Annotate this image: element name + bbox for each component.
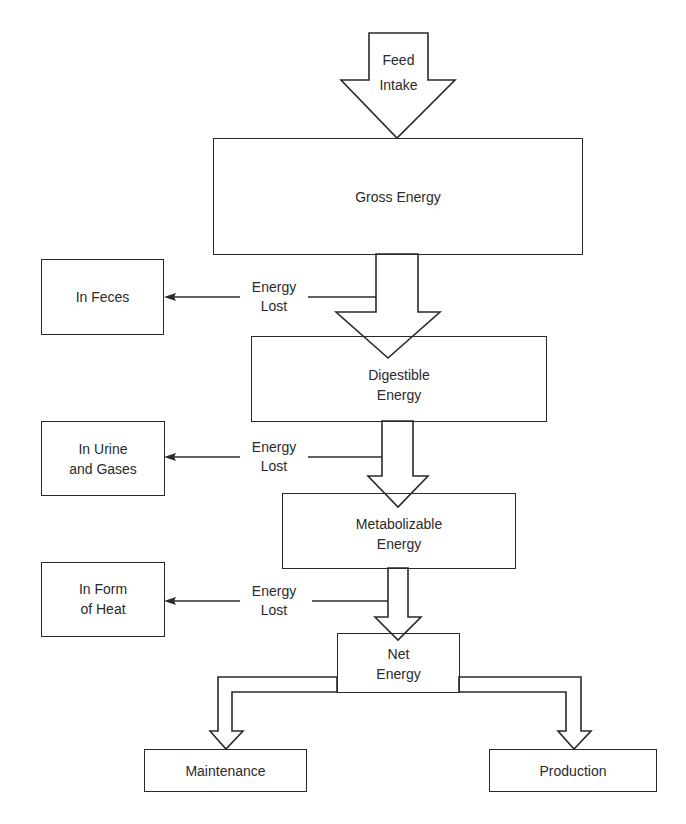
- production-label: Production: [540, 761, 607, 781]
- maintenance-box: Maintenance: [144, 749, 307, 792]
- metabolizable-to-net-arrow: [375, 568, 421, 640]
- energy-lost-label-1: Energy Lost: [236, 278, 312, 316]
- production-box: Production: [489, 749, 657, 792]
- net-to-production-arrow: [459, 677, 591, 749]
- gross-energy-label: Gross Energy: [355, 187, 441, 207]
- net-energy-label: Energy: [376, 664, 420, 684]
- gross-energy-box: Gross Energy: [213, 138, 583, 255]
- metabolizable-label: Metabolizable: [356, 514, 442, 534]
- metabolizable-energy-label: Energy: [356, 534, 442, 554]
- digestible-energy-label: Energy: [368, 385, 429, 405]
- net-to-maintenance-arrow: [210, 677, 337, 749]
- in-urine-and-gases-box: In Urine and Gases: [41, 421, 165, 496]
- feed-intake-label: Feed Intake: [369, 41, 428, 95]
- feed-label: Feed: [369, 41, 428, 79]
- net-label: Net: [376, 644, 420, 664]
- metabolizable-energy-box: Metabolizable Energy: [282, 493, 516, 569]
- net-energy-box: Net Energy: [337, 633, 460, 693]
- energy-lost-label-3: Energy Lost: [236, 582, 312, 620]
- digestible-energy-box: Digestible Energy: [251, 336, 547, 422]
- maintenance-label: Maintenance: [185, 761, 265, 781]
- energy-lost-label-2: Energy Lost: [236, 438, 312, 476]
- intake-label: Intake: [369, 75, 428, 95]
- in-feces-box: In Feces: [41, 259, 164, 335]
- digestible-label: Digestible: [368, 365, 429, 385]
- in-form-of-heat-box: In Form of Heat: [41, 562, 165, 637]
